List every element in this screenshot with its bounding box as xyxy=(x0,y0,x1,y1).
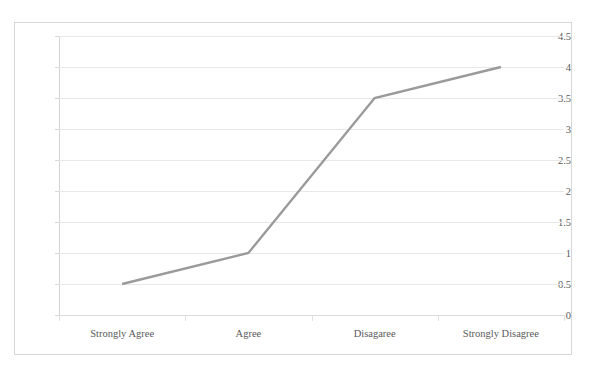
plot-area xyxy=(59,36,564,315)
x-axis-tick-label: Disagaree xyxy=(354,328,396,339)
x-axis-tick-mark xyxy=(564,315,565,321)
gridline xyxy=(59,315,564,316)
x-axis-tick-label: Strongly Disagree xyxy=(463,328,539,339)
x-axis-tick-label: Strongly Agree xyxy=(90,328,154,339)
chart-title xyxy=(0,0,589,3)
series-line-chart xyxy=(59,36,564,315)
series-polyline xyxy=(122,67,501,284)
chart-frame: 00.511.522.533.544.5 Strongly AgreeAgree… xyxy=(14,22,572,355)
x-axis-tick-label: Agree xyxy=(236,328,262,339)
